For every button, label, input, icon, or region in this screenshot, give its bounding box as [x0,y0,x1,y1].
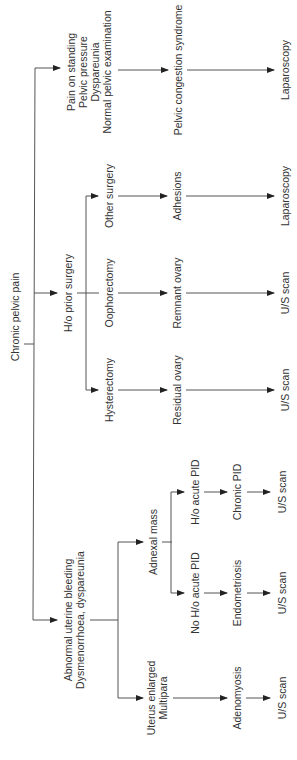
connector-lines [0,0,297,760]
adnexal-mass-node: Adnexal mass [147,509,159,575]
diagnosis-adhesions: Adhesions [171,171,183,220]
diagnosis-endometriosis: Endometriosis [231,560,243,627]
investigation-us-scan: U/S scan [276,677,288,720]
prior-surgery-node: H/o prior surgery [62,254,74,332]
flowchart: Chronic pelvic pain Pain on standing Pel… [0,0,297,760]
node-line: Multipara [157,661,169,736]
investigation-us-scan: U/S scan [279,272,291,315]
criteria-line: Pelvic pressure [77,10,89,133]
node-line: Abnormal uterine bleeding [62,551,74,689]
criteria-line: Pain on standing [65,10,77,133]
hysterectomy-node: Hysterectomy [103,358,115,422]
diagnosis-adenomyosis: Adenomyosis [231,666,243,729]
ho-acute-pid-node: H/o acute PID [189,459,201,524]
investigation-us-scan: U/S scan [276,572,288,615]
diagnosis-pelvic-congestion: Pelvic congestion syndrome [172,5,184,136]
abnormal-bleeding-node: Abnormal uterine bleeding Dysmenorrhoea,… [62,551,86,689]
criteria-line: Normal pelvic examination [101,10,113,133]
investigation-us-scan: U/S scan [276,471,288,514]
diagnosis-remnant-ovary: Remnant ovary [171,257,183,328]
diagnosis-chronic-pid: Chronic PID [231,464,243,521]
node-line: Dysmenorrhoea, dyspareunia [74,551,86,689]
investigation-laparoscopy: Laparoscopy [279,40,291,100]
criteria-line: Dyspareunia [89,10,101,133]
other-surgery-node: Other surgery [103,164,115,228]
uterus-enlarged-node: Uterus enlarged Multipara [145,661,169,736]
node-line: Uterus enlarged [145,661,157,736]
pelvic-congestion-criteria: Pain on standing Pelvic pressure Dyspare… [65,10,113,133]
root-node: Chronic pelvic pain [9,273,21,362]
oophorectomy-node: Oophorectomy [103,259,115,328]
investigation-laparoscopy: Laparoscopy [279,166,291,226]
no-ho-acute-pid-node: No H/o acute PID [189,552,201,634]
investigation-us-scan: U/S scan [279,369,291,412]
diagnosis-residual-ovary: Residual ovary [171,355,183,424]
